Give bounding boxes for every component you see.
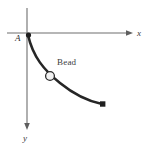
bead-on-wire-figure: A x y Bead — [0, 0, 150, 145]
start-point-marker — [26, 32, 31, 37]
figure-canvas: A x y Bead — [0, 0, 150, 145]
bead-label: Bead — [57, 57, 77, 67]
x-axis-arrow-icon — [126, 30, 133, 36]
start-point-label: A — [14, 33, 21, 43]
y-axis-label: y — [22, 133, 27, 143]
wire-curve — [28, 35, 102, 104]
y-axis-arrow-icon — [24, 123, 30, 130]
bead-icon — [46, 72, 55, 81]
x-axis-label: x — [136, 28, 141, 38]
end-point-marker — [100, 101, 105, 106]
